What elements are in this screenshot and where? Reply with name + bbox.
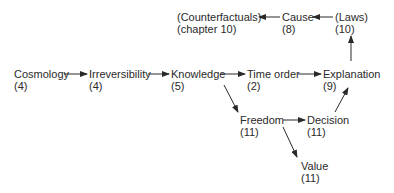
node-value: Value (11) xyxy=(301,160,328,184)
node-chapter: (10) xyxy=(335,23,368,35)
node-chapter: (9) xyxy=(323,80,381,92)
node-chapter: (4) xyxy=(89,80,151,92)
node-chapter: (11) xyxy=(307,126,349,138)
node-label: Freedom xyxy=(240,114,284,126)
node-explanation: Explanation (9) xyxy=(323,68,381,92)
node-chapter: (8) xyxy=(282,23,314,35)
node-time-order: Time order (2) xyxy=(247,68,300,92)
node-label: (Laws) xyxy=(335,11,368,23)
node-laws: (Laws) (10) xyxy=(335,11,368,35)
node-cosmology: Cosmology (4) xyxy=(14,68,69,92)
node-chapter: (2) xyxy=(247,80,300,92)
node-cause: Cause (8) xyxy=(282,11,314,35)
node-chapter: (11) xyxy=(240,126,284,138)
node-freedom: Freedom (11) xyxy=(240,114,284,138)
node-chapter: (5) xyxy=(171,80,225,92)
node-label: Value xyxy=(301,160,328,172)
node-chapter: (11) xyxy=(301,172,328,184)
node-label: Knowledge xyxy=(171,68,225,80)
node-label: Explanation xyxy=(323,68,381,80)
node-label: Decision xyxy=(307,114,349,126)
node-label: Cosmology xyxy=(14,68,69,80)
node-label: Time order xyxy=(247,68,300,80)
node-counterfactuals: (Counterfactuals) (chapter 10) xyxy=(177,11,261,35)
node-decision: Decision (11) xyxy=(307,114,349,138)
node-chapter: (4) xyxy=(14,80,69,92)
node-label: Cause xyxy=(282,11,314,23)
node-chapter: (chapter 10) xyxy=(177,23,261,35)
node-label: Irreversibility xyxy=(89,68,151,80)
edge-freedom-value xyxy=(283,127,297,157)
node-irreversibility: Irreversibility (4) xyxy=(89,68,151,92)
node-knowledge: Knowledge (5) xyxy=(171,68,225,92)
node-label: (Counterfactuals) xyxy=(177,11,261,23)
edge-knowledge-freedom xyxy=(224,85,238,112)
